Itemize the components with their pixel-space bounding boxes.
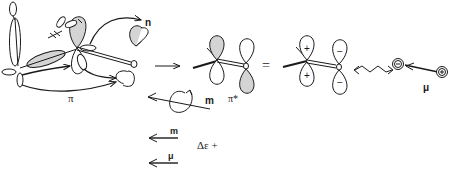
magnetic-moment-rotation: m <box>148 90 214 112</box>
small-top-lobe <box>10 2 17 16</box>
arrow-to-pi-1 <box>84 69 116 78</box>
n-orbital-label: n <box>145 17 151 28</box>
n-pi-star-transition-diagram: n π π* = + + <box>0 0 451 174</box>
small-left-lobe <box>2 69 16 75</box>
pi-star-label: π* <box>228 93 238 104</box>
minus-bottom: − <box>337 77 343 88</box>
magnetic-moment-label: m <box>170 126 178 136</box>
pi-star-oxygen-top-lobe <box>240 39 254 63</box>
pi-label: π <box>68 92 74 104</box>
oxygen-atom <box>131 61 137 68</box>
signed-pi-star-orbital: + + − − <box>283 36 347 95</box>
equivalence-wavy-arrow <box>354 66 393 74</box>
pi-star-oxygen <box>244 63 249 69</box>
electric-moment-label: μ <box>168 151 174 161</box>
arrow-to-pi-2 <box>22 82 116 91</box>
magnetic-moment-rotation-label: m <box>205 95 214 106</box>
plus-top: + <box>304 43 310 54</box>
pi-star-carbon-top-lobe <box>210 36 224 60</box>
electric-moment-arrow: μ <box>149 151 178 167</box>
pi-star-oxygen-bottom-lobe <box>240 69 254 93</box>
electric-dipole: μ <box>393 59 448 94</box>
minus-top: − <box>337 46 343 57</box>
signed-oxygen <box>337 64 342 70</box>
dipole-mu-label: μ <box>423 82 429 93</box>
left-orbital-system: n π <box>2 2 151 104</box>
plus-bottom: + <box>304 70 310 81</box>
carbonyl-carbon <box>48 15 96 73</box>
delta-epsilon-label: Δε + <box>197 139 218 151</box>
pi-star-orbital: π* <box>193 36 254 104</box>
magnetic-moment-arrow: m <box>149 126 178 142</box>
equals-sign: = <box>262 58 270 73</box>
